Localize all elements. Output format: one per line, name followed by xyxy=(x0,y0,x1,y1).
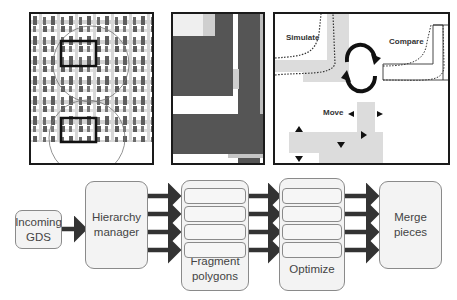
optimize-slot-3 xyxy=(282,224,342,240)
move-label: Move xyxy=(323,108,343,117)
optimize-slot-2 xyxy=(282,206,342,222)
fragment-line2: polygons xyxy=(190,269,239,284)
fragment-slot-4 xyxy=(184,242,246,258)
fragment-slot-3 xyxy=(184,224,246,240)
merge-pieces-box: Merge pieces xyxy=(379,181,442,269)
optimize-line1: Optimize xyxy=(289,262,334,277)
layout-overview-panel xyxy=(29,12,154,165)
zoomed-polygon-shapes xyxy=(173,14,265,165)
merge-line1: Merge xyxy=(394,210,427,225)
optimize-slot-4 xyxy=(282,242,342,258)
fragment-slot-2 xyxy=(184,206,246,222)
compare-label: Compare xyxy=(389,37,424,46)
incoming-gds-line1: Incoming xyxy=(15,215,62,230)
optimization-loop-panel: Simulate Compare Move xyxy=(273,12,450,165)
fragment-slot-1 xyxy=(184,188,246,204)
hierarchy-line2: manager xyxy=(92,225,141,240)
hierarchy-line1: Hierarchy xyxy=(92,210,141,225)
merge-line2: pieces xyxy=(394,225,427,240)
hierarchy-manager-box: Hierarchy manager xyxy=(85,181,148,269)
optimize-slot-1 xyxy=(282,188,342,204)
layout-pattern xyxy=(31,14,154,165)
simulate-label: Simulate xyxy=(286,33,319,42)
incoming-gds-line2: GDS xyxy=(15,230,62,245)
zoomed-polygon-panel xyxy=(171,12,265,165)
incoming-gds-box: Incoming GDS xyxy=(15,210,62,249)
